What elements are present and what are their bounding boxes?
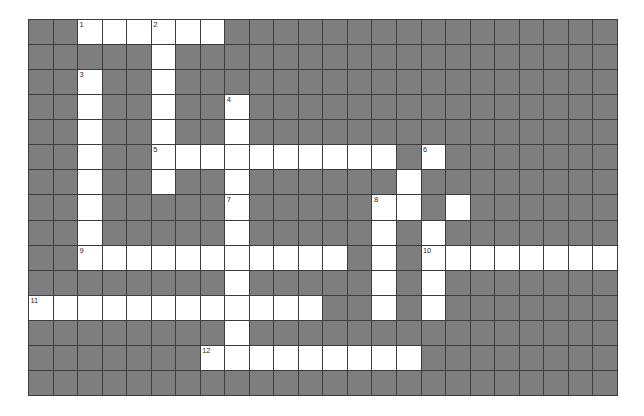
crossword-cell-open[interactable] bbox=[78, 295, 103, 320]
crossword-cell-open[interactable] bbox=[78, 195, 103, 220]
crossword-cell-open[interactable] bbox=[102, 20, 127, 45]
crossword-cell-open[interactable] bbox=[372, 145, 397, 170]
crossword-grid[interactable]: 123456789101112 bbox=[28, 19, 618, 396]
crossword-cell-open[interactable] bbox=[151, 295, 176, 320]
crossword-cell-open[interactable] bbox=[225, 120, 250, 145]
crossword-cell-open[interactable] bbox=[396, 195, 421, 220]
crossword-cell-open[interactable]: 4 bbox=[225, 95, 250, 120]
crossword-cell-open[interactable] bbox=[274, 145, 299, 170]
crossword-cell-open[interactable] bbox=[372, 220, 397, 245]
crossword-cell-open[interactable] bbox=[274, 345, 299, 370]
crossword-cell-open[interactable] bbox=[495, 245, 520, 270]
crossword-cell-open[interactable] bbox=[151, 120, 176, 145]
crossword-cell-open[interactable] bbox=[225, 295, 250, 320]
crossword-cell-open[interactable] bbox=[176, 245, 201, 270]
crossword-cell-open[interactable] bbox=[347, 145, 372, 170]
crossword-cell-open[interactable]: 7 bbox=[225, 195, 250, 220]
crossword-cell-open[interactable] bbox=[225, 320, 250, 345]
crossword-cell-block bbox=[29, 20, 54, 45]
crossword-cell-block bbox=[446, 370, 471, 395]
crossword-cell-open[interactable] bbox=[78, 170, 103, 195]
crossword-cell-open[interactable]: 11 bbox=[29, 295, 54, 320]
crossword-cell-open[interactable] bbox=[225, 345, 250, 370]
crossword-cell-open[interactable]: 8 bbox=[372, 195, 397, 220]
crossword-cell-open[interactable] bbox=[396, 345, 421, 370]
crossword-cell-open[interactable] bbox=[249, 245, 274, 270]
crossword-cell-open[interactable]: 2 bbox=[151, 20, 176, 45]
crossword-cell-open[interactable] bbox=[151, 70, 176, 95]
clue-number-10: 10 bbox=[423, 246, 431, 255]
crossword-cell-open[interactable] bbox=[127, 20, 152, 45]
crossword-cell-open[interactable] bbox=[323, 345, 348, 370]
crossword-cell-block bbox=[53, 320, 78, 345]
crossword-cell-open[interactable] bbox=[372, 345, 397, 370]
crossword-cell-open[interactable] bbox=[200, 20, 225, 45]
crossword-cell-open[interactable] bbox=[151, 95, 176, 120]
crossword-cell-open[interactable] bbox=[593, 245, 618, 270]
crossword-cell-open[interactable]: 6 bbox=[421, 145, 446, 170]
crossword-cell-open[interactable]: 5 bbox=[151, 145, 176, 170]
crossword-cell-open[interactable] bbox=[421, 220, 446, 245]
crossword-cell-block bbox=[176, 320, 201, 345]
crossword-cell-open[interactable] bbox=[274, 245, 299, 270]
crossword-cell-open[interactable] bbox=[470, 245, 495, 270]
crossword-cell-open[interactable] bbox=[225, 270, 250, 295]
crossword-cell-open[interactable]: 3 bbox=[78, 70, 103, 95]
crossword-cell-open[interactable] bbox=[396, 170, 421, 195]
clue-number-7: 7 bbox=[227, 195, 231, 204]
crossword-cell-open[interactable]: 12 bbox=[200, 345, 225, 370]
crossword-cell-open[interactable] bbox=[78, 145, 103, 170]
crossword-cell-open[interactable] bbox=[323, 145, 348, 170]
crossword-cell-open[interactable] bbox=[151, 170, 176, 195]
crossword-cell-open[interactable]: 1 bbox=[78, 20, 103, 45]
crossword-cell-open[interactable]: 10 bbox=[421, 245, 446, 270]
crossword-cell-open[interactable] bbox=[176, 145, 201, 170]
crossword-cell-open[interactable] bbox=[323, 245, 348, 270]
crossword-cell-open[interactable] bbox=[249, 345, 274, 370]
crossword-cell-open[interactable] bbox=[53, 295, 78, 320]
crossword-cell-open[interactable] bbox=[372, 270, 397, 295]
crossword-cell-open[interactable] bbox=[225, 145, 250, 170]
crossword-cell-open[interactable] bbox=[176, 20, 201, 45]
crossword-cell-open[interactable] bbox=[298, 345, 323, 370]
crossword-cell-open[interactable] bbox=[274, 295, 299, 320]
crossword-cell-open[interactable] bbox=[249, 145, 274, 170]
crossword-cell-block bbox=[396, 245, 421, 270]
crossword-cell-open[interactable] bbox=[519, 245, 544, 270]
crossword-cell-block bbox=[593, 320, 618, 345]
crossword-cell-open[interactable] bbox=[225, 220, 250, 245]
crossword-cell-open[interactable] bbox=[298, 245, 323, 270]
crossword-cell-open[interactable] bbox=[78, 220, 103, 245]
crossword-cell-block bbox=[495, 270, 520, 295]
crossword-cell-open[interactable] bbox=[347, 345, 372, 370]
crossword-cell-open[interactable] bbox=[421, 270, 446, 295]
crossword-cell-open[interactable] bbox=[298, 145, 323, 170]
crossword-cell-open[interactable] bbox=[249, 295, 274, 320]
crossword-cell-open[interactable] bbox=[372, 245, 397, 270]
crossword-cell-open[interactable] bbox=[151, 245, 176, 270]
crossword-cell-open[interactable] bbox=[200, 245, 225, 270]
crossword-cell-open[interactable] bbox=[102, 295, 127, 320]
crossword-cell-block bbox=[568, 70, 593, 95]
crossword-cell-open[interactable] bbox=[78, 95, 103, 120]
crossword-cell-open[interactable] bbox=[151, 45, 176, 70]
crossword-cell-open[interactable]: 9 bbox=[78, 245, 103, 270]
crossword-cell-open[interactable] bbox=[544, 245, 569, 270]
crossword-cell-open[interactable] bbox=[298, 295, 323, 320]
crossword-cell-block bbox=[176, 45, 201, 70]
crossword-cell-open[interactable] bbox=[78, 120, 103, 145]
crossword-cell-open[interactable] bbox=[446, 245, 471, 270]
crossword-cell-open[interactable] bbox=[127, 245, 152, 270]
crossword-cell-open[interactable] bbox=[176, 295, 201, 320]
crossword-cell-open[interactable] bbox=[372, 295, 397, 320]
crossword-cell-open[interactable] bbox=[127, 295, 152, 320]
crossword-cell-open[interactable] bbox=[446, 195, 471, 220]
crossword-cell-open[interactable] bbox=[225, 245, 250, 270]
crossword-cell-open[interactable] bbox=[421, 295, 446, 320]
crossword-cell-open[interactable] bbox=[102, 245, 127, 270]
crossword-cell-open[interactable] bbox=[200, 295, 225, 320]
crossword-cell-open[interactable] bbox=[200, 145, 225, 170]
crossword-cell-open[interactable] bbox=[568, 245, 593, 270]
crossword-cell-open[interactable] bbox=[225, 170, 250, 195]
crossword-cell-block bbox=[347, 20, 372, 45]
